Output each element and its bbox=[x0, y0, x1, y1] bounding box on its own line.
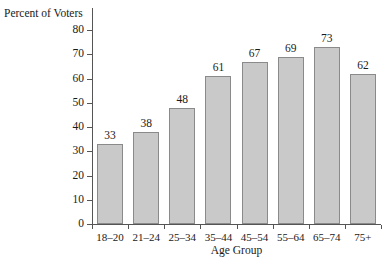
y-axis-tick-label-text: 80 bbox=[58, 24, 84, 36]
x-axis-tick bbox=[345, 225, 346, 229]
y-axis-tick-label-text: 60 bbox=[58, 73, 84, 85]
y-axis-tick bbox=[87, 200, 92, 201]
y-axis-tick-label-text: 20 bbox=[58, 170, 84, 182]
bar-value-label: 62 bbox=[345, 59, 381, 71]
x-axis-tick bbox=[128, 225, 129, 229]
y-axis-tick-label: 30 bbox=[58, 145, 84, 157]
x-axis-tick bbox=[92, 225, 93, 229]
bar bbox=[133, 132, 159, 224]
bar bbox=[242, 62, 268, 224]
y-axis-tick-label-text: 10 bbox=[58, 194, 84, 206]
y-axis-tick bbox=[87, 30, 92, 31]
bar bbox=[350, 74, 376, 224]
x-axis-tick bbox=[237, 225, 238, 229]
y-axis-tick-label: 20 bbox=[58, 170, 84, 182]
x-axis-tick bbox=[164, 225, 165, 229]
y-axis-tick bbox=[87, 54, 92, 55]
y-axis-tick-label: 60 bbox=[58, 73, 84, 85]
y-axis-tick bbox=[87, 79, 92, 80]
y-axis-tick-label: 0 bbox=[58, 218, 84, 230]
y-axis-tick bbox=[87, 103, 92, 104]
x-axis-title: Age Group bbox=[92, 244, 381, 257]
y-axis-tick-label-text: 0 bbox=[58, 218, 84, 230]
y-axis-tick bbox=[87, 151, 92, 152]
x-axis-tick bbox=[273, 225, 274, 229]
bar-value-label: 61 bbox=[200, 61, 236, 73]
y-axis-tick-label-text: 30 bbox=[58, 145, 84, 157]
bar-value-label: 38 bbox=[128, 117, 164, 129]
x-axis-tick bbox=[381, 225, 382, 229]
x-axis-category-label: 75+ bbox=[341, 231, 385, 244]
bar bbox=[205, 76, 231, 224]
bar bbox=[97, 144, 123, 224]
y-axis-tick-label: 40 bbox=[58, 121, 84, 133]
bar-value-label: 33 bbox=[92, 129, 128, 141]
y-axis-tick-label-text: 40 bbox=[58, 121, 84, 133]
y-axis-title: Percent of Voters bbox=[4, 7, 83, 20]
bar-value-label: 69 bbox=[273, 42, 309, 54]
bar-value-label: 67 bbox=[237, 47, 273, 59]
y-axis-tick-label: 70 bbox=[58, 48, 84, 60]
y-axis-line bbox=[92, 8, 93, 225]
bar bbox=[314, 47, 340, 224]
y-axis-tick-label: 10 bbox=[58, 194, 84, 206]
y-axis-tick-label: 80 bbox=[58, 24, 84, 36]
bar bbox=[278, 57, 304, 224]
y-axis-tick-label-text: 70 bbox=[58, 48, 84, 60]
bar-chart: Percent of Voters 01020304050607080 3338… bbox=[0, 0, 390, 262]
bar-value-label: 73 bbox=[309, 32, 345, 44]
y-axis-tick bbox=[87, 127, 92, 128]
bar bbox=[169, 108, 195, 224]
y-axis-tick bbox=[87, 176, 92, 177]
x-axis-tick bbox=[309, 225, 310, 229]
x-axis-tick bbox=[200, 225, 201, 229]
bar-value-label: 48 bbox=[164, 93, 200, 105]
y-axis-tick-label: 50 bbox=[58, 97, 84, 109]
y-axis-tick-label-text: 50 bbox=[58, 97, 84, 109]
